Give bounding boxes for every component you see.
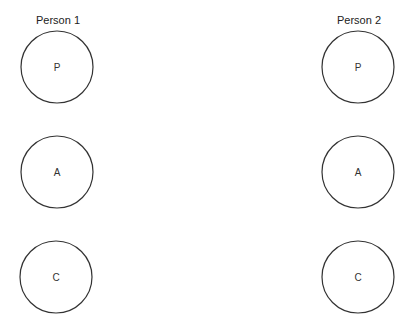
ego-state-diagram: Person 1 P A C Person 2 P A C (0, 0, 415, 328)
person-2-child-letter: C (354, 272, 361, 283)
person-2-column: Person 2 P A C (322, 14, 394, 313)
person-1-child-state: C (20, 241, 92, 313)
person-1-adult-letter: A (54, 167, 61, 178)
person-2-child-state: C (322, 241, 394, 313)
person-1-column: Person 1 P A C (20, 14, 93, 313)
person-2-adult-letter: A (355, 167, 362, 178)
person-2-adult-state: A (322, 136, 394, 208)
person-1-label: Person 1 (36, 14, 80, 26)
person-2-parent-state: P (322, 31, 394, 103)
person-1-parent-letter: P (54, 62, 61, 73)
person-2-parent-letter: P (355, 62, 362, 73)
person-2-label: Person 2 (337, 14, 381, 26)
person-1-parent-state: P (21, 31, 93, 103)
person-1-child-letter: C (52, 272, 59, 283)
person-1-adult-state: A (21, 136, 93, 208)
